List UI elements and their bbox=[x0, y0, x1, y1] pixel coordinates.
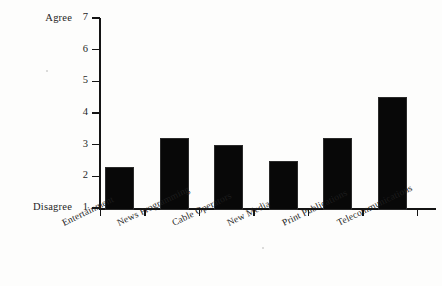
y-tick-mark bbox=[92, 81, 100, 83]
y-tick-label: 3 bbox=[72, 138, 88, 149]
y-tick-mark bbox=[92, 49, 100, 51]
y-tick-label: 2 bbox=[72, 169, 88, 180]
y-tick-label: 5 bbox=[72, 74, 88, 85]
bar-chart-figure: Agree Disagree 1234567 EntertainmentNews… bbox=[0, 0, 442, 286]
y-tick-mark bbox=[92, 176, 100, 178]
y-tick-mark bbox=[92, 144, 100, 146]
x-tick-mark bbox=[417, 209, 419, 216]
y-axis-min-label: Disagree bbox=[6, 201, 72, 212]
scan-speckle bbox=[262, 247, 264, 249]
y-tick-mark bbox=[92, 112, 100, 114]
y-tick-label: 6 bbox=[72, 43, 88, 54]
y-tick-mark bbox=[92, 17, 100, 19]
y-tick-label: 4 bbox=[72, 106, 88, 117]
bar bbox=[269, 161, 298, 211]
y-axis-max-label: Agree bbox=[6, 12, 72, 23]
scan-speckle bbox=[46, 70, 48, 72]
y-tick-label: 7 bbox=[72, 11, 88, 22]
